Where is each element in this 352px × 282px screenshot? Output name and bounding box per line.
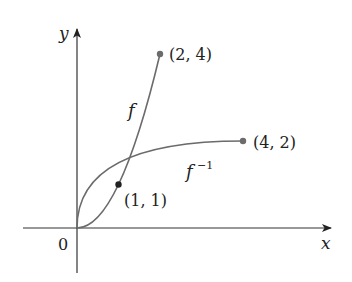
- point-2-4-label: (2, 4): [169, 45, 212, 64]
- y-axis-label: y: [58, 23, 69, 43]
- origin-label: 0: [58, 235, 68, 254]
- point-1-1-label: (1, 1): [124, 191, 167, 210]
- point-1-1-marker: [115, 181, 121, 187]
- curve-f-inverse-label: f: [184, 161, 196, 182]
- curve-f-inverse: [77, 141, 243, 228]
- point-4-2-label: (4, 2): [253, 133, 296, 152]
- function-inverse-diagram: y x 0 (2, 4) (4, 2) (1, 1) f f −1: [0, 0, 352, 282]
- x-axis-label: x: [321, 233, 331, 253]
- curve-f-inverse-superscript: −1: [197, 159, 213, 172]
- curve-f-label: f: [126, 100, 138, 121]
- point-4-2-marker: [240, 138, 246, 144]
- point-2-4-marker: [157, 51, 163, 57]
